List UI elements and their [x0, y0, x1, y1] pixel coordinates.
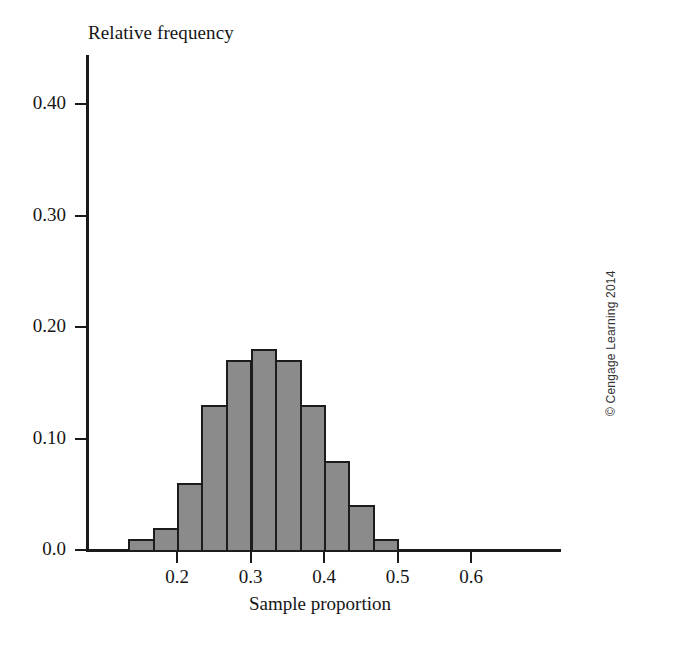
histogram-bar	[373, 539, 399, 552]
copyright-credit: © Cengage Learning 2014	[604, 216, 618, 416]
histogram-bar	[348, 505, 375, 552]
histogram-bar	[177, 483, 203, 552]
histogram-bar	[300, 405, 326, 552]
histogram-bar	[275, 360, 302, 552]
histogram-bar	[251, 349, 277, 552]
x-axis-title: Sample proportion	[0, 593, 640, 615]
histogram-bar	[128, 539, 155, 552]
histogram-bar	[226, 360, 252, 552]
plot-area: 0.400.300.200.100.0 0.20.30.40.50.6	[0, 0, 700, 646]
histogram-bar	[324, 461, 350, 552]
histogram-bars	[0, 0, 700, 646]
histogram-bar	[201, 405, 228, 552]
histogram-figure: Relative frequency 0.400.300.200.100.0 0…	[0, 0, 700, 646]
histogram-bar	[153, 528, 179, 552]
